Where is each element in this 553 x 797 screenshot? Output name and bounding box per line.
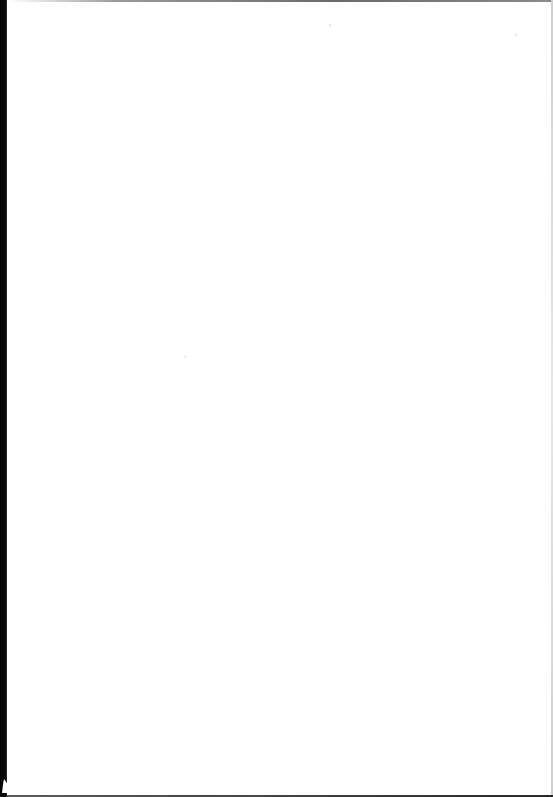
top-edge-shadow: [7, 0, 553, 2]
scan-speck: [329, 24, 331, 27]
binding-edge-shadow: [0, 0, 7, 797]
scan-speck: [515, 33, 517, 36]
scan-speck: [184, 355, 186, 358]
blank-document-page: [0, 0, 553, 797]
